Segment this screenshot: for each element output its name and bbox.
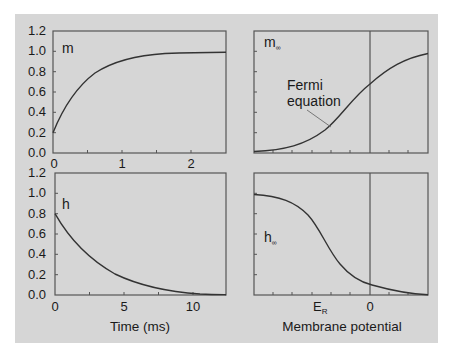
x-axis-title-potential: Membrane potential: [282, 319, 401, 334]
h-label: h: [62, 196, 70, 212]
x-tick-label-er: ER: [313, 299, 328, 316]
svg-text:0.8: 0.8: [28, 64, 46, 79]
svg-text:0.4: 0.4: [28, 246, 46, 261]
svg-text:5: 5: [120, 299, 127, 314]
figure: 0.0 0.2 0.4 0.6 0.8 1.0 1.2 0 1 2 m: [0, 0, 453, 360]
fermi-annotation-line2: equation: [287, 93, 341, 109]
h-curve: [55, 214, 226, 295]
y-tick-labels: 0.0 0.2 0.4 0.6 0.8 1.0 1.2: [28, 23, 46, 160]
panel-m: 0.0 0.2 0.4 0.6 0.8 1.0 1.2 0 1 2 m: [28, 23, 226, 171]
x-tick-labels: 0 1 2: [50, 156, 194, 171]
svg-text:0.4: 0.4: [28, 104, 46, 119]
svg-text:2: 2: [187, 156, 194, 171]
svg-text:0: 0: [50, 156, 57, 171]
h-inf-label: h∞: [264, 229, 277, 246]
m-inf-label: m∞: [264, 34, 281, 51]
svg-text:1.0: 1.0: [28, 185, 46, 200]
h-inf-curve: [254, 195, 428, 295]
svg-text:10: 10: [186, 299, 200, 314]
x-axis-title-time: Time (ms): [110, 319, 170, 334]
panel-m-inf: m∞ Fermi equation: [254, 31, 428, 153]
m-curve: [53, 52, 226, 133]
svg-text:0.2: 0.2: [28, 267, 46, 282]
svg-text:0.0: 0.0: [28, 287, 46, 302]
x-tick-labels: 0 5 10: [51, 299, 200, 314]
svg-text:1.2: 1.2: [28, 23, 46, 38]
y-tick-labels: 0.0 0.2 0.4 0.6 0.8 1.0 1.2: [28, 165, 46, 302]
svg-text:0.2: 0.2: [28, 125, 46, 140]
fermi-pointer-line: [307, 110, 331, 127]
svg-text:0.0: 0.0: [28, 145, 46, 160]
panel-h-inf: h∞ ER 0 Membrane potential: [254, 173, 428, 334]
svg-text:0.6: 0.6: [28, 226, 46, 241]
m-label: m: [62, 40, 74, 56]
m-inf-curve: [254, 54, 428, 152]
svg-text:0.6: 0.6: [28, 84, 46, 99]
svg-text:1: 1: [118, 156, 125, 171]
plot-frame: [55, 173, 226, 295]
panel-h: 0.0 0.2 0.4 0.6 0.8 1.0 1.2 0 5 10 h Tim…: [28, 165, 226, 334]
fermi-annotation-line1: Fermi: [287, 77, 323, 93]
x-tick-label-zero: 0: [366, 299, 373, 314]
svg-text:1.0: 1.0: [28, 43, 46, 58]
svg-text:0.8: 0.8: [28, 206, 46, 221]
svg-text:0: 0: [51, 299, 58, 314]
svg-text:1.2: 1.2: [28, 165, 46, 180]
plot-frame: [254, 173, 428, 295]
plot-frame: [53, 31, 226, 153]
